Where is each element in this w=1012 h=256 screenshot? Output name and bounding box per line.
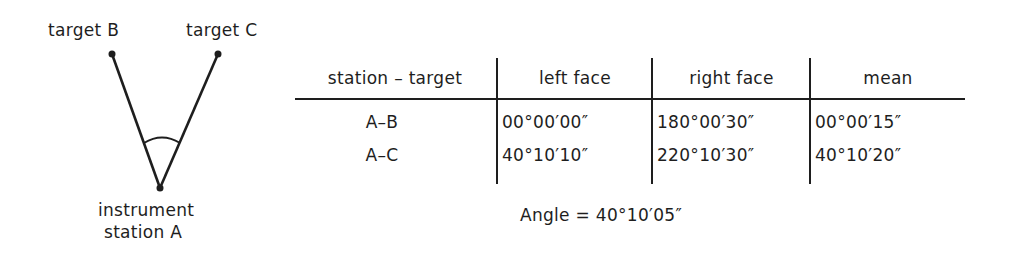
cell-mean: 40°10′20″: [813, 145, 965, 165]
angle-result: Angle = 40°10′05″: [520, 205, 682, 225]
line-a-to-b: [112, 54, 160, 188]
label-target-b: target B: [48, 20, 119, 40]
column-divider-1: [496, 58, 498, 184]
point-b: [109, 51, 116, 58]
header-mean: mean: [813, 68, 963, 88]
cell-station: A–B: [297, 112, 467, 132]
header-rule: [295, 98, 965, 100]
cell-left-face: 00°00′00″: [500, 112, 652, 132]
header-right-face: right face: [655, 68, 808, 88]
angle-arc: [144, 138, 180, 144]
cell-right-face: 180°00′30″: [655, 112, 810, 132]
header-station-target: station – target: [297, 68, 493, 88]
cell-right-face: 220°10′30″: [655, 145, 810, 165]
cell-mean: 00°00′15″: [813, 112, 965, 132]
line-a-to-c: [160, 54, 218, 188]
label-station-line1: instrument: [98, 200, 194, 220]
cell-left-face: 40°10′10″: [500, 145, 652, 165]
label-target-c: target C: [186, 20, 257, 40]
cell-station: A–C: [297, 145, 467, 165]
label-station-line2: station A: [104, 222, 182, 242]
point-c: [215, 51, 222, 58]
header-left-face: left face: [500, 68, 650, 88]
point-a: [157, 185, 164, 192]
